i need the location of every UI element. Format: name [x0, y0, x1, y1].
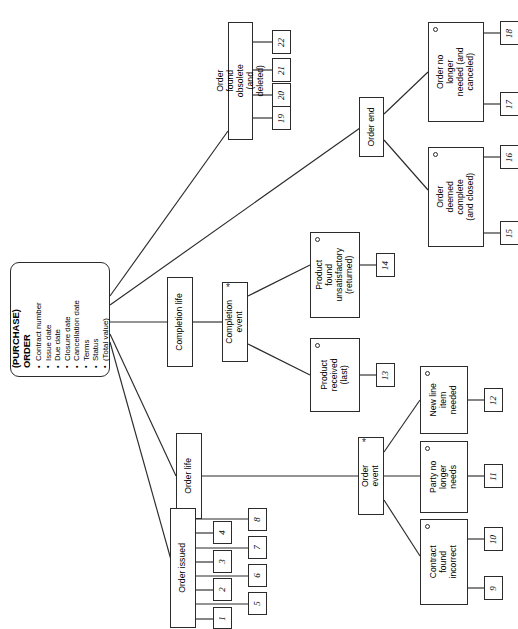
- node-product-received[interactable]: Product received (last): [310, 338, 360, 412]
- node-label: Order life: [184, 458, 194, 494]
- entity-attribute: Contract number: [34, 271, 43, 369]
- entity-attribute: Terms: [82, 271, 91, 369]
- node-order-issued[interactable]: Order issued: [170, 508, 196, 628]
- numbered-box-22[interactable]: 22: [272, 30, 291, 54]
- node-label: New line item needed: [429, 377, 459, 423]
- numbered-box-19[interactable]: 19: [272, 106, 291, 130]
- optional-marker-icon: [425, 371, 430, 376]
- numbered-box-label: 20: [277, 91, 286, 100]
- numbered-box-13[interactable]: 13: [376, 363, 395, 387]
- node-order-found-obsolete[interactable]: Order found obsolete (and deleted): [228, 22, 253, 140]
- node-label: Completion event: [225, 300, 245, 344]
- repeating-marker-icon: [362, 438, 366, 448]
- numbered-box-17[interactable]: 17: [500, 92, 518, 116]
- entity-attribute: Issue date: [44, 271, 53, 369]
- optional-marker-icon: [433, 152, 438, 157]
- node-order-event[interactable]: Order event: [358, 437, 384, 515]
- numbered-box-15[interactable]: 15: [500, 221, 518, 245]
- numbered-box-11[interactable]: 11: [484, 464, 503, 488]
- numbered-box-label: 10: [489, 535, 498, 544]
- node-label: Product received (last): [320, 351, 350, 399]
- numbered-box-3[interactable]: 3: [213, 550, 232, 573]
- numbered-box-label: 8: [253, 517, 262, 522]
- entity-attribute: Due date: [53, 271, 62, 369]
- numbered-box-1[interactable]: 1: [213, 607, 232, 629]
- numbered-box-label: 1: [218, 616, 227, 621]
- node-new-line-item-needed[interactable]: New line item needed: [420, 366, 468, 434]
- numbered-box-label: 9: [489, 586, 498, 591]
- numbered-box-label: 16: [505, 153, 514, 162]
- numbered-box-label: 6: [253, 573, 262, 578]
- numbered-box-14[interactable]: 14: [376, 253, 395, 277]
- node-product-found-unsatisfactory[interactable]: Product found unsatisfactory (returned): [310, 232, 360, 318]
- node-label: Completion life: [175, 293, 185, 351]
- numbered-box-9[interactable]: 9: [484, 576, 503, 600]
- node-order-end[interactable]: Order end: [359, 97, 384, 157]
- node-order-life[interactable]: Order life: [176, 433, 202, 519]
- node-label: Order event: [361, 464, 381, 488]
- entity-attribute-list: Contract number Issue date Due date Clos…: [34, 271, 110, 369]
- entity-purchase-order[interactable]: (PURCHASE) ORDER Contract number Issue d…: [10, 262, 110, 377]
- numbered-box-8[interactable]: 8: [248, 508, 267, 531]
- numbered-box-label: 19: [277, 114, 286, 123]
- numbered-box-12[interactable]: 12: [484, 388, 503, 412]
- entity-title: (PURCHASE) ORDER: [10, 271, 32, 369]
- optional-marker-icon: [425, 446, 430, 451]
- node-label: Order no longer needed (and canceled): [436, 45, 476, 99]
- entity-attribute: Status: [91, 271, 100, 369]
- numbered-box-20[interactable]: 20: [272, 83, 291, 107]
- optional-marker-icon: [315, 237, 320, 242]
- numbered-box-label: 3: [218, 559, 227, 564]
- node-order-deemed-complete[interactable]: Order deemed complete (and closed): [428, 147, 484, 247]
- numbered-box-label: 4: [218, 530, 227, 535]
- entity-attribute: Cancellation date: [72, 271, 81, 369]
- optional-marker-icon: [433, 27, 438, 32]
- entity-attribute: (Total value): [101, 271, 110, 369]
- node-label: Order issued: [178, 543, 188, 593]
- numbered-box-4[interactable]: 4: [213, 521, 232, 544]
- numbered-box-2[interactable]: 2: [213, 578, 232, 601]
- numbered-box-6[interactable]: 6: [248, 564, 267, 587]
- numbered-box-label: 18: [505, 29, 514, 38]
- node-label: Product found unsatisfactory (returned): [315, 248, 355, 302]
- node-party-no-longer-needs[interactable]: Party no longer needs: [420, 441, 468, 513]
- node-label: Order end: [367, 107, 377, 146]
- optional-marker-icon: [425, 524, 430, 529]
- numbered-box-label: 13: [381, 371, 390, 380]
- numbered-box-18[interactable]: 18: [500, 21, 518, 45]
- numbered-box-label: 12: [489, 396, 498, 405]
- numbered-box-7[interactable]: 7: [248, 536, 267, 559]
- numbered-box-label: 7: [253, 545, 262, 550]
- numbered-box-21[interactable]: 21: [272, 58, 291, 82]
- numbered-box-16[interactable]: 16: [500, 145, 518, 169]
- numbered-box-10[interactable]: 10: [484, 527, 503, 551]
- node-completion-life[interactable]: Completion life: [167, 277, 193, 367]
- numbered-box-label: 2: [218, 587, 227, 592]
- numbered-box-label: 5: [253, 601, 262, 606]
- numbered-box-5[interactable]: 5: [248, 592, 267, 615]
- numbered-box-label: 14: [381, 261, 390, 270]
- diagram-canvas: (PURCHASE) ORDER Contract number Issue d…: [0, 0, 518, 629]
- node-completion-event[interactable]: Completion event: [222, 282, 248, 362]
- numbered-box-label: 21: [277, 66, 286, 75]
- numbered-box-label: 22: [277, 38, 286, 47]
- node-label: Order deemed complete (and closed): [436, 170, 476, 224]
- numbered-box-label: 17: [505, 100, 514, 109]
- numbered-box-label: 15: [505, 229, 514, 238]
- repeating-marker-icon: [226, 283, 230, 293]
- node-order-no-longer-needed[interactable]: Order no longer needed (and canceled): [428, 22, 484, 122]
- node-label: Order found obsolete (and deleted): [216, 65, 265, 98]
- node-label: Contract found incorrect: [429, 539, 459, 585]
- entity-attribute: Closure date: [63, 271, 72, 369]
- entity-body: (PURCHASE) ORDER Contract number Issue d…: [10, 271, 110, 369]
- optional-marker-icon: [315, 343, 320, 348]
- numbered-box-label: 11: [489, 472, 498, 480]
- node-label: Party no longer needs: [429, 454, 459, 500]
- node-contract-found-incorrect[interactable]: Contract found incorrect: [420, 519, 468, 605]
